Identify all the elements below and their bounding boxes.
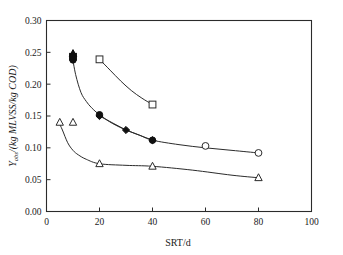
y-tick-label: 0.25	[25, 48, 42, 58]
y-tick-label: 0.00	[25, 207, 42, 217]
marker-filled-circle	[70, 54, 76, 60]
x-axis-label: SRT/d	[165, 237, 191, 248]
x-tick-label: 0	[44, 217, 49, 227]
x-tick-label: 80	[254, 217, 264, 227]
x-tick-label: 40	[148, 217, 158, 227]
plot-canvas: 020406080100 0.000.050.100.150.200.250.3…	[0, 0, 343, 255]
marker-filled-diamond	[122, 126, 129, 133]
x-tick-label: 100	[304, 217, 319, 227]
y-axis-label-text: Yobs/(kg MLVSS/kg COD)	[7, 65, 19, 167]
y-tick-label: 0.10	[25, 143, 42, 153]
series-curves	[59, 54, 259, 178]
y-axis-label: Yobs/(kg MLVSS/kg COD)	[7, 65, 19, 167]
x-tick-label: 20	[95, 217, 105, 227]
y-tick-label: 0.15	[25, 111, 42, 121]
marker-open-circle	[255, 150, 262, 157]
x-axis-tick-labels: 020406080100	[44, 217, 319, 227]
x-tick-label: 60	[201, 217, 211, 227]
chart-figure: 020406080100 0.000.050.100.150.200.250.3…	[0, 0, 343, 255]
y-axis-label-rest: /(kg MLVSS/kg COD)	[7, 65, 19, 154]
marker-open-square	[96, 56, 103, 63]
y-tick-label: 0.05	[25, 175, 42, 185]
marker-open-circle	[202, 143, 209, 150]
y-axis-ticks	[47, 21, 51, 212]
open-square-series-curve	[100, 59, 153, 104]
series-markers	[56, 50, 262, 181]
y-tick-label: 0.30	[25, 16, 42, 26]
plot-border	[47, 21, 312, 212]
marker-open-triangle	[69, 118, 76, 125]
filled-circle-series-curve	[72, 54, 259, 153]
marker-open-triangle	[56, 118, 63, 125]
y-tick-label: 0.20	[25, 80, 42, 90]
plot-frame	[47, 21, 312, 212]
y-axis-tick-labels: 0.000.050.100.150.200.250.30	[25, 16, 42, 217]
marker-open-square	[149, 101, 156, 108]
x-axis-ticks	[47, 208, 312, 212]
